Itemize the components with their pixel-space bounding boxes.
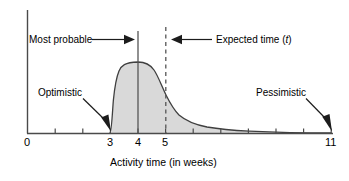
most-probable-leader bbox=[92, 35, 135, 44]
expected-time-label: Expected time (t) bbox=[216, 34, 292, 45]
x-tick-label-0: 0 bbox=[24, 137, 30, 148]
most-probable-label: Most probable bbox=[29, 34, 92, 45]
expected-time-leader bbox=[171, 35, 212, 44]
expected-time-label-prefix: Expected time ( bbox=[216, 34, 285, 45]
pert-activity-time-distribution-figure: Most probable Expected time (t) Optimist… bbox=[0, 0, 349, 181]
x-tick-label-5: 5 bbox=[162, 137, 168, 148]
x-tick-label-4: 4 bbox=[135, 137, 141, 148]
pessimistic-leader bbox=[306, 99, 332, 132]
expected-time-label-suffix: ) bbox=[288, 34, 291, 45]
optimistic-label: Optimistic bbox=[38, 87, 82, 98]
x-tick-label-11: 11 bbox=[325, 137, 336, 148]
x-axis-title: Activity time (in weeks) bbox=[110, 157, 217, 168]
optimistic-leader bbox=[83, 99, 111, 132]
x-tick-label-3: 3 bbox=[107, 137, 113, 148]
pessimistic-label: Pessimistic bbox=[256, 87, 306, 98]
